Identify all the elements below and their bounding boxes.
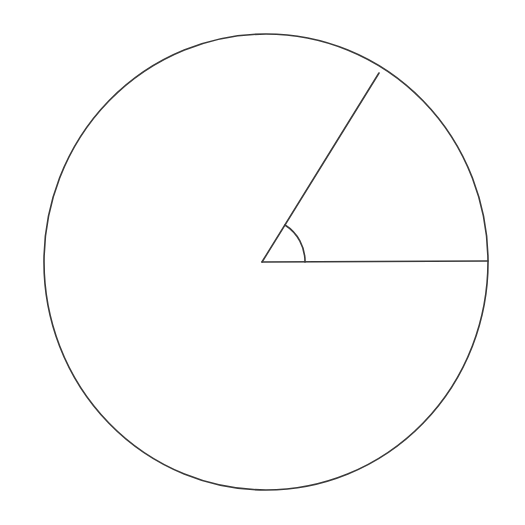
horizontal-radius-line: [262, 261, 488, 262]
geometry-figure: [0, 0, 525, 525]
